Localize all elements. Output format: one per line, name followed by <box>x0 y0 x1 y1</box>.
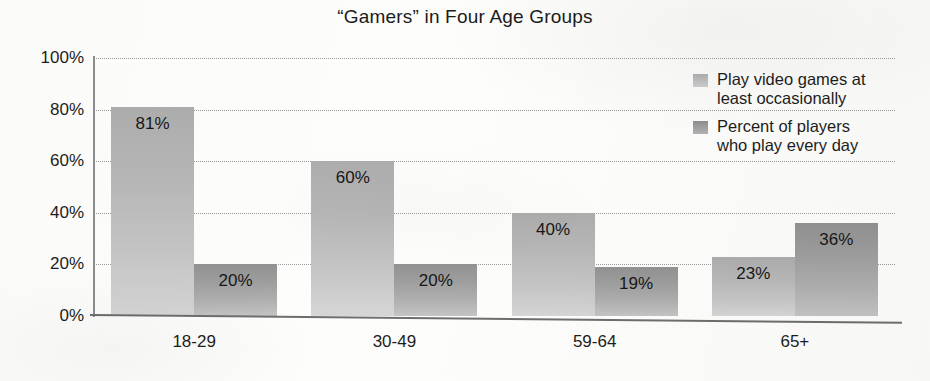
bar: 40% <box>512 213 595 316</box>
bar-value-label: 81% <box>111 114 194 134</box>
chart-legend: Play video games at least occasionally P… <box>693 70 908 164</box>
legend-label-line1: Percent of players <box>717 117 850 135</box>
chart-title: “Gamers” in Four Age Groups <box>0 6 930 28</box>
y-axis-tick-label: 40% <box>50 203 84 223</box>
bar: 36% <box>795 223 878 316</box>
bar-value-label: 20% <box>394 271 477 291</box>
bar-value-label: 19% <box>595 274 678 294</box>
legend-label-line1: Play video games at <box>717 70 866 88</box>
y-axis-tick-label: 60% <box>50 151 84 171</box>
legend-label-line2: least occasionally <box>717 89 846 107</box>
legend-label-line2: who play every day <box>717 136 858 154</box>
bar: 19% <box>595 267 678 316</box>
legend-label: Percent of players who play every day <box>717 117 858 155</box>
bar: 20% <box>394 264 477 316</box>
y-axis-tick-label: 0% <box>59 306 84 326</box>
bar: 60% <box>311 161 394 316</box>
x-axis-category-label: 18-29 <box>94 332 294 352</box>
bar-value-label: 36% <box>795 230 878 250</box>
legend-item: Percent of players who play every day <box>693 117 908 155</box>
bar: 23% <box>712 257 795 316</box>
chart-page: “Gamers” in Four Age Groups 0%20%40%60%8… <box>0 0 930 381</box>
y-axis-tick-label: 100% <box>41 48 84 68</box>
x-axis-category-label: 59-64 <box>495 332 695 352</box>
bar: 81% <box>111 107 194 316</box>
bar-value-label: 23% <box>712 264 795 284</box>
y-axis-line <box>93 56 95 317</box>
legend-swatch-icon <box>693 74 708 87</box>
bar-value-label: 40% <box>512 220 595 240</box>
legend-item: Play video games at least occasionally <box>693 70 908 108</box>
x-axis-category-label: 30-49 <box>294 332 494 352</box>
bar-value-label: 60% <box>311 168 394 188</box>
legend-swatch-icon <box>693 121 708 134</box>
y-axis-tick-label: 20% <box>50 254 84 274</box>
bar: 20% <box>194 264 277 316</box>
gridline <box>94 58 895 59</box>
y-axis-tick-label: 80% <box>50 100 84 120</box>
gridline <box>94 213 895 214</box>
bar-value-label: 20% <box>194 271 277 291</box>
x-axis-category-label: 65+ <box>695 332 895 352</box>
legend-label: Play video games at least occasionally <box>717 70 866 108</box>
